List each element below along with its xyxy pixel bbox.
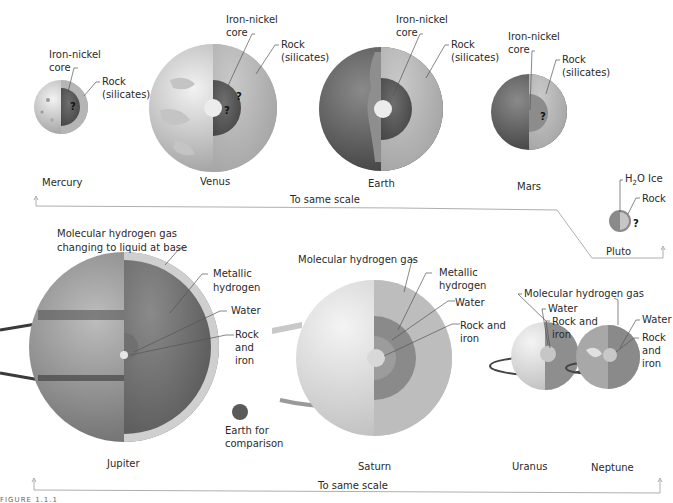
label-and: and xyxy=(235,342,254,353)
label-iron-nickel: Iron-nickel xyxy=(508,31,560,42)
label-rock-and: Rock and xyxy=(460,320,506,331)
label-comparison: comparison xyxy=(225,438,283,449)
label-iron-nickel: Iron-nickel xyxy=(49,49,101,60)
label-molecular-hydrogen: Molecular hydrogen gas xyxy=(298,254,418,265)
mars-diagram: ? Iron-nickel core Rock (silicates) Mars xyxy=(491,31,610,192)
planet-name-neptune: Neptune xyxy=(591,462,634,473)
label-h2o: H xyxy=(625,173,633,184)
label-iron: iron xyxy=(235,355,254,366)
unknown-mark: ? xyxy=(633,218,639,229)
label-and: and xyxy=(642,345,661,356)
planet-name-mars: Mars xyxy=(517,181,541,192)
mercury-diagram: ? Iron-nickel core Rock (silicates) Merc… xyxy=(34,49,150,188)
svg-text:H2O Ice: H2O Ice xyxy=(625,173,663,187)
pluto-diagram: ? H2O Ice Rock Pluto xyxy=(606,173,666,257)
label-metallic: Metallic xyxy=(213,268,252,279)
label-core: core xyxy=(49,62,71,73)
label-hydrogen: hydrogen xyxy=(213,282,260,293)
label-rock: Rock xyxy=(562,54,586,65)
label-water: Water xyxy=(642,314,672,325)
label-core: core xyxy=(396,27,418,38)
planet-name-pluto: Pluto xyxy=(606,246,631,257)
planet-name-mercury: Mercury xyxy=(42,177,83,188)
label-rock: Rock xyxy=(235,329,259,340)
neptune-rock-iron xyxy=(603,348,617,362)
scale-label-terrestrial: To same scale xyxy=(289,194,360,205)
jupiter-diagram: Molecular hydrogen gas changing to liqui… xyxy=(0,228,261,469)
jupiter-rock-iron xyxy=(120,351,128,359)
label-rock-and: Rock and xyxy=(552,316,598,327)
label-rock: Rock xyxy=(642,332,666,343)
label-rock: Rock xyxy=(281,39,305,50)
planet-name-saturn: Saturn xyxy=(358,461,391,472)
label-core: core xyxy=(226,27,248,38)
label-rock: Rock xyxy=(102,76,126,87)
label-iron: iron xyxy=(642,358,661,369)
label-core: core xyxy=(508,44,530,55)
label-iron-nickel: Iron-nickel xyxy=(226,14,278,25)
label-changing-to-liquid: changing to liquid at base xyxy=(57,242,187,253)
label-iron: iron xyxy=(552,329,571,340)
planet-name-jupiter: Jupiter xyxy=(106,458,140,469)
label-silicates: (silicates) xyxy=(451,52,499,63)
scale-label-jovian: To same scale xyxy=(317,480,388,491)
label-molecular-hydrogen: Molecular hydrogen gas xyxy=(524,288,644,299)
unknown-mark: ? xyxy=(236,91,242,102)
planet-interiors-diagram: ? Iron-nickel core Rock (silicates) Merc… xyxy=(0,0,673,503)
label-earth-for: Earth for xyxy=(225,425,270,436)
unknown-mark: ? xyxy=(224,105,230,116)
planet-name-venus: Venus xyxy=(200,176,230,187)
label-metallic: Metallic xyxy=(439,267,478,278)
planet-name-uranus: Uranus xyxy=(512,461,547,472)
saturn-diagram: Molecular hydrogen gas Metallic hydrogen… xyxy=(272,254,506,472)
planet-name-earth: Earth xyxy=(368,178,395,189)
label-silicates: (silicates) xyxy=(562,67,610,78)
label-silicates: (silicates) xyxy=(102,89,150,100)
venus-diagram: ? ? Iron-nickel core Rock (silicates) Ve… xyxy=(149,14,329,187)
label-water: Water xyxy=(548,303,578,314)
earth-inner-core xyxy=(374,100,392,118)
unknown-mark: ? xyxy=(540,111,546,122)
earth-comparison-dot xyxy=(232,404,248,420)
earth-diagram: Iron-nickel core Rock (silicates) Earth xyxy=(319,14,499,189)
venus-inner-core xyxy=(204,99,222,117)
label-molecular-hydrogen: Molecular hydrogen gas xyxy=(57,228,177,239)
label-water: Water xyxy=(455,297,485,308)
figure-caption: FIGURE 1.1.1 xyxy=(0,496,58,503)
uranus-rock-iron xyxy=(540,346,556,362)
label-rock: Rock xyxy=(642,193,666,204)
earth-comparison: Earth for comparison xyxy=(225,404,283,449)
label-silicates: (silicates) xyxy=(281,52,329,63)
label-hydrogen: hydrogen xyxy=(439,280,486,291)
label-rock: Rock xyxy=(451,39,475,50)
unknown-mark: ? xyxy=(70,101,76,112)
saturn-rock-iron xyxy=(367,349,385,367)
label-iron: iron xyxy=(460,333,479,344)
label-iron-nickel: Iron-nickel xyxy=(396,14,448,25)
label-ice: O Ice xyxy=(637,173,663,184)
label-water: Water xyxy=(231,305,261,316)
